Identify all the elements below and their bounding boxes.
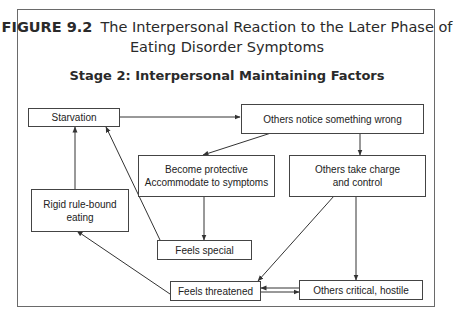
node-become-protective-line1: Become protective [165, 163, 248, 176]
node-others-critical-label: Others critical, hostile [313, 284, 409, 297]
node-others-notice-label: Others notice something wrong [263, 113, 401, 126]
node-become-protective-line2: Accommodate to symptoms [145, 176, 268, 189]
node-feels-special: Feels special [157, 240, 252, 260]
node-become-protective: Become protective Accommodate to symptom… [138, 155, 275, 197]
node-others-critical: Others critical, hostile [299, 280, 423, 300]
node-starvation-label: Starvation [51, 111, 96, 124]
node-others-notice: Others notice something wrong [241, 104, 424, 134]
node-starvation: Starvation [28, 108, 120, 127]
arrow-take-charge-to-feels-threatened [258, 196, 334, 281]
node-rigid-line2: eating [66, 211, 93, 224]
node-feels-special-label: Feels special [175, 244, 233, 257]
node-rigid-line1: Rigid rule-bound [43, 198, 116, 211]
node-others-take-charge: Others take charge and control [289, 155, 426, 197]
node-rigid-rule-bound-eating: Rigid rule-bound eating [31, 189, 129, 232]
node-others-take-charge-line2: and control [333, 176, 382, 189]
node-feels-threatened-label: Feels threatened [178, 285, 253, 298]
node-others-take-charge-line1: Others take charge [315, 163, 400, 176]
node-feels-threatened: Feels threatened [170, 281, 261, 301]
arrow-others-notice-to-become-protective [203, 133, 271, 155]
